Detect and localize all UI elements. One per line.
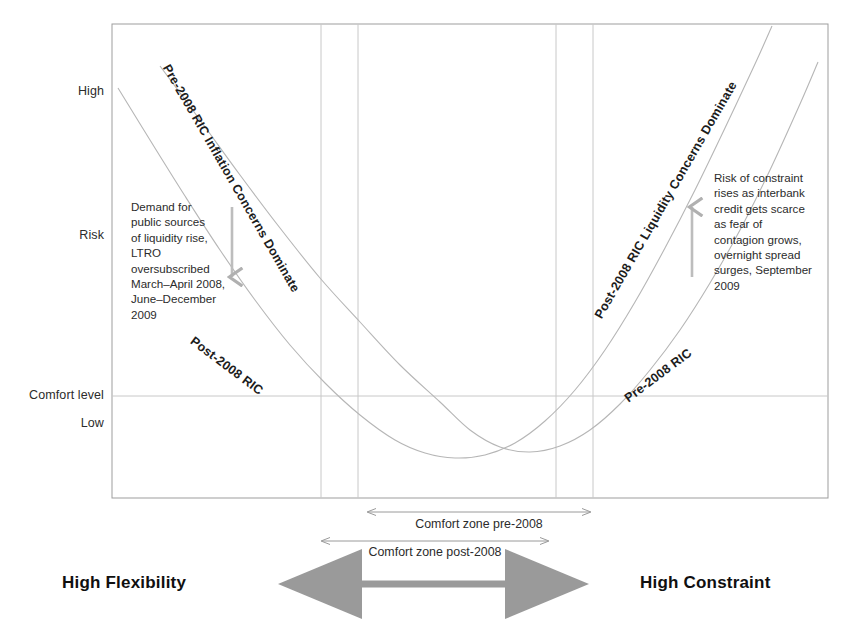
x-axis-right-label-high-constraint: High Constraint	[640, 573, 771, 593]
y-tick-high: High	[78, 84, 104, 98]
reserve-indifference-curve-figure: High Risk Comfort level Low Demand for p…	[0, 0, 855, 620]
left-annotation-text: Demand for public sources of liquidity r…	[131, 199, 241, 322]
comfort-zone-post-2008-label: Comfort zone post-2008	[325, 545, 545, 559]
x-axis-left-label-high-flexibility: High Flexibility	[62, 573, 186, 593]
right-annotation-text: Risk of constraint rises as interbank cr…	[714, 170, 836, 293]
y-tick-low: Low	[81, 416, 104, 430]
comfort-zone-pre-2008-label: Comfort zone pre-2008	[369, 517, 589, 531]
y-axis-title-risk: Risk	[79, 228, 104, 242]
comfort-zone-boundary-lines	[321, 24, 593, 498]
y-tick-comfort-level: Comfort level	[29, 388, 104, 402]
